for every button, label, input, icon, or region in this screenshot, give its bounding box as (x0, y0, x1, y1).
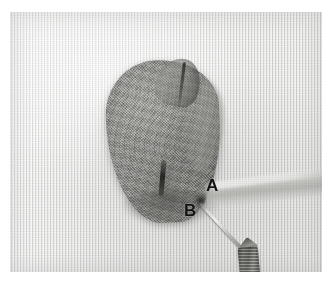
photograph-plate: A B (10, 12, 322, 272)
figure-root: A B (0, 0, 330, 286)
annotation-label-a: A (206, 177, 218, 194)
annotation-label-b: B (184, 202, 196, 219)
